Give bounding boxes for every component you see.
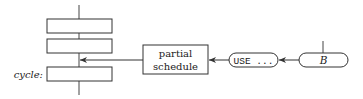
stack-box-1 (47, 19, 112, 33)
cycle-label: cycle: (14, 69, 43, 80)
use-node-label: USE ... (234, 56, 274, 67)
partial-schedule-line2: schedule (153, 61, 198, 72)
diagram-canvas: cycle: partial schedule USE ... B (0, 0, 363, 99)
b-node-label: B (319, 54, 328, 66)
stack-box-2 (47, 39, 112, 53)
partial-schedule-line1: partial (159, 48, 193, 59)
stack-box-cycle (47, 67, 112, 81)
